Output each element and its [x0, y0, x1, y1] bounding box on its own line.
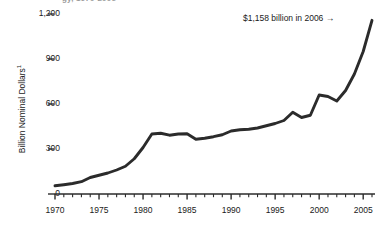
- data-line-series: [55, 20, 372, 185]
- plot-area: [0, 0, 380, 226]
- chart-container: gy, 1970-2006 Billion Nominal Dollars1 1…: [0, 0, 380, 226]
